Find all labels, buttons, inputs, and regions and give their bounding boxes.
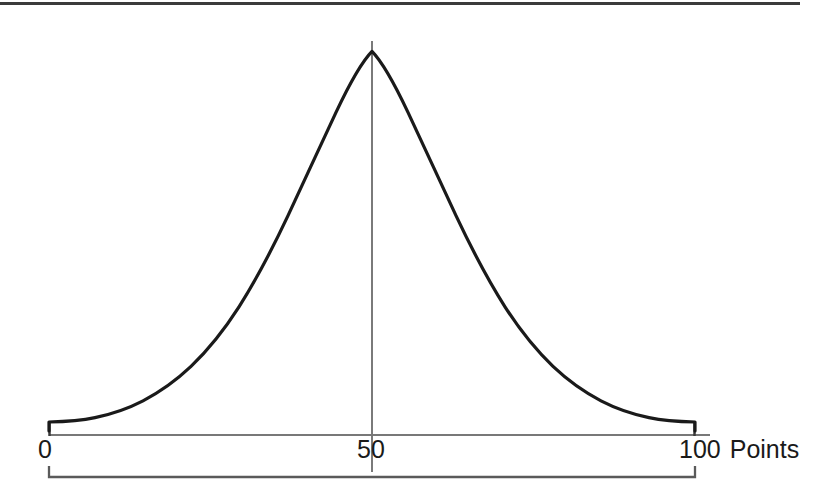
bell-curve-figure: 0 50 100Points <box>0 0 821 504</box>
axis-unit-label: Points <box>730 435 799 463</box>
axis-tick-label-0: 0 <box>38 437 52 462</box>
axis-tick-label-100-points: 100Points <box>679 437 799 462</box>
bell-curve-plot <box>0 0 821 504</box>
axis-tick-label-50: 50 <box>357 437 385 462</box>
axis-tick-label-100: 100 <box>679 435 721 463</box>
